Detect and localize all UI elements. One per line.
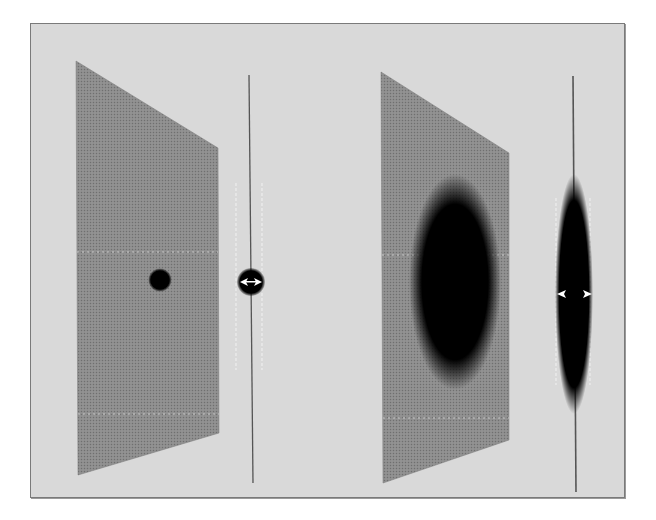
figure-canvas: [0, 0, 656, 520]
right-panel: [381, 72, 593, 492]
left-sheet-small-dot: [149, 269, 172, 292]
left-mesh-sheet: [76, 61, 219, 475]
left-panel: [76, 61, 265, 483]
right-sheet-large-dark-region: [409, 174, 501, 390]
